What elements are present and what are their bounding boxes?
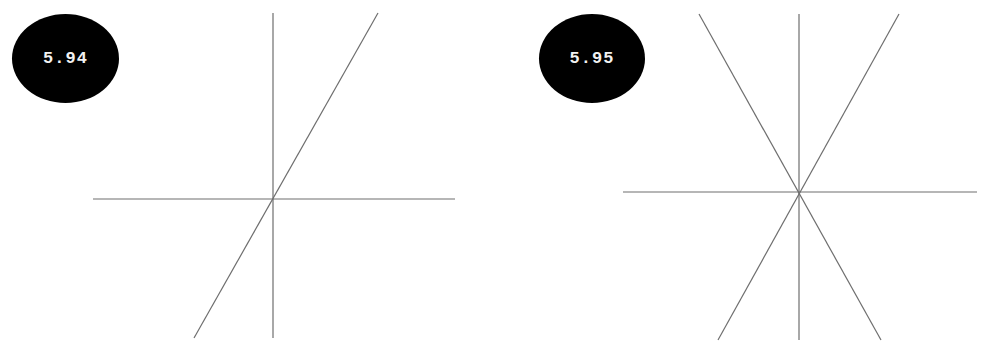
diagonal-line-descending (699, 14, 881, 340)
diagonal-line (194, 13, 378, 338)
diagram-canvas (0, 0, 987, 347)
left-figure (93, 13, 455, 338)
value-badge-right-label: 5.95 (570, 49, 615, 68)
value-badge-left: 5.94 (12, 14, 119, 103)
diagonal-line-ascending (718, 14, 899, 340)
value-badge-right: 5.95 (539, 14, 645, 103)
right-figure (623, 14, 977, 340)
value-badge-left-label: 5.94 (43, 49, 88, 68)
